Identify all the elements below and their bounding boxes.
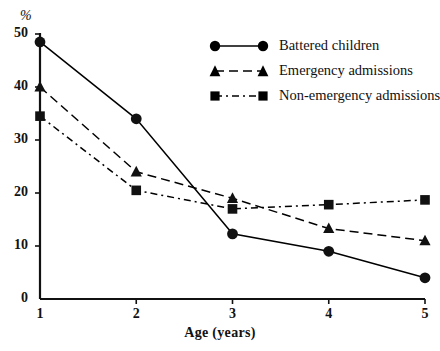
data-point-s1-x2: [131, 166, 142, 177]
x-tick-label-3: 3: [223, 306, 243, 322]
legend-marker-square-icon: [208, 88, 270, 104]
data-point-s2-x4: [324, 200, 334, 210]
data-point-s2-x3: [228, 204, 238, 214]
data-point-s2-x2: [131, 186, 141, 196]
x-tick-label-5: 5: [415, 306, 435, 322]
data-point-s0-x4: [323, 246, 334, 257]
y-tick-label-50: 50: [2, 25, 28, 41]
data-point-s0-x5: [420, 272, 431, 283]
y-tick-label-30: 30: [2, 131, 28, 147]
data-point-s2-x1: [35, 111, 45, 121]
y-tick-label-40: 40: [2, 78, 28, 94]
data-point-s0-x2: [131, 113, 142, 124]
data-point-s0-x1: [35, 37, 46, 48]
x-tick-label-2: 2: [126, 306, 146, 322]
y-tick-label-0: 0: [2, 290, 28, 306]
x-tick-label-1: 1: [30, 306, 50, 322]
legend-item-2: Non-emergency admissions: [208, 83, 440, 108]
legend-label-0: Battered children: [279, 37, 379, 54]
data-point-s2-x5: [420, 195, 430, 205]
x-tick-label-4: 4: [319, 306, 339, 322]
legend-marker-triangle-icon: [208, 63, 270, 79]
legend-item-1: Emergency admissions: [208, 58, 440, 83]
y-tick-label-10: 10: [2, 237, 28, 253]
y-tick-label-20: 20: [2, 184, 28, 200]
legend-label-1: Emergency admissions: [279, 62, 413, 79]
legend-label-2: Non-emergency admissions: [279, 87, 440, 104]
legend-item-0: Battered children: [208, 33, 440, 58]
data-point-s0-x3: [227, 228, 238, 239]
legend-marker-circle-icon: [208, 38, 270, 54]
chart-legend: Battered childrenEmergency admissionsNon…: [208, 33, 440, 108]
series-line-1: [40, 87, 425, 241]
x-axis-title: Age (years): [0, 325, 440, 341]
chart-container: % 01020304050 12345 Age (years) Battered…: [0, 0, 440, 351]
